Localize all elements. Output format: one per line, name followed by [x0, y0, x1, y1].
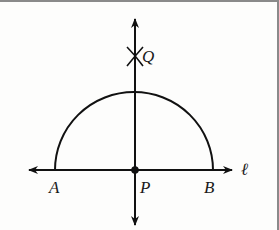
label-a: A	[49, 179, 59, 196]
point-p	[131, 166, 139, 174]
label-q: Q	[142, 48, 154, 65]
label-line-l: ℓ	[241, 161, 248, 178]
diagram-canvas: Q A P B ℓ	[0, 0, 279, 230]
label-b: B	[204, 179, 214, 196]
label-p: P	[140, 179, 150, 196]
